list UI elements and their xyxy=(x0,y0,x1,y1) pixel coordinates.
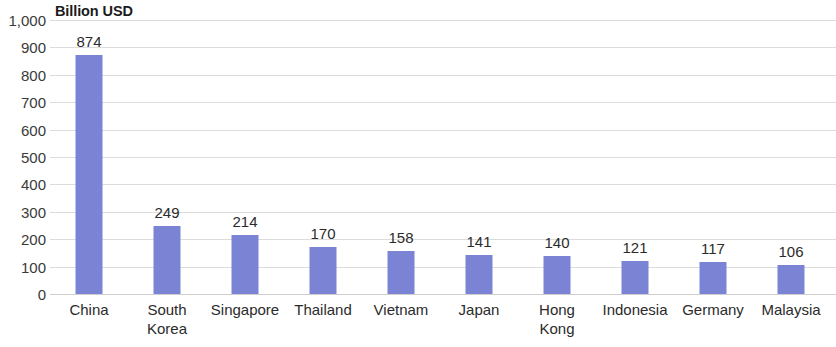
bar-value-label: 158 xyxy=(388,230,413,245)
bar-slot: 106 xyxy=(752,20,830,294)
bar-value-label: 141 xyxy=(466,234,491,249)
x-axis-category-label: China xyxy=(50,300,128,319)
bar[interactable] xyxy=(154,226,181,294)
chart-axis-title: Billion USD xyxy=(55,3,133,19)
bar[interactable] xyxy=(700,262,727,294)
bar-value-label: 117 xyxy=(701,241,725,256)
y-axis-tick-label: 1,000 xyxy=(0,13,46,28)
y-axis-tick-label: 200 xyxy=(0,232,46,247)
x-axis-category-label: Singapore xyxy=(206,300,284,319)
bars: 874249214170158141140121117106 xyxy=(50,20,836,294)
x-axis-category-label: Hong Kong xyxy=(518,300,596,338)
bar[interactable] xyxy=(232,235,259,294)
y-axis-tick-label: 500 xyxy=(0,150,46,165)
x-axis-category-label: Malaysia xyxy=(752,300,830,319)
bar[interactable] xyxy=(388,251,415,294)
y-axis-tick-label: 800 xyxy=(0,67,46,82)
x-axis-category-label: Germany xyxy=(674,300,752,319)
bar-slot: 141 xyxy=(440,20,518,294)
y-axis-tick-labels: 1,0009008007006005004003002001000 xyxy=(0,20,46,294)
bar[interactable] xyxy=(544,256,571,294)
y-axis-tick-label: 400 xyxy=(0,177,46,192)
x-axis-category-label: Thailand xyxy=(284,300,362,319)
bar-slot: 874 xyxy=(50,20,128,294)
x-axis-category-labels: ChinaSouth KoreaSingaporeThailandVietnam… xyxy=(50,300,836,347)
y-axis-tick-label: 700 xyxy=(0,95,46,110)
y-axis-tick-label: 300 xyxy=(0,204,46,219)
bar-slot: 140 xyxy=(518,20,596,294)
bar[interactable] xyxy=(76,55,103,294)
gridline xyxy=(50,294,836,295)
bar-value-label: 249 xyxy=(154,205,179,220)
bar-value-label: 140 xyxy=(544,235,569,250)
x-axis-category-label: Indonesia xyxy=(596,300,674,319)
x-axis-category-label: Vietnam xyxy=(362,300,440,319)
bar-slot: 170 xyxy=(284,20,362,294)
plot-area: 874249214170158141140121117106 xyxy=(50,20,836,294)
x-axis-category-label: South Korea xyxy=(128,300,206,338)
bar-chart: Billion USD 1,00090080070060050040030020… xyxy=(0,0,836,347)
bar-slot: 249 xyxy=(128,20,206,294)
bar[interactable] xyxy=(622,261,649,294)
bar-value-label: 874 xyxy=(76,34,101,49)
bar-slot: 158 xyxy=(362,20,440,294)
x-axis-category-label: Japan xyxy=(440,300,518,319)
bar-value-label: 106 xyxy=(778,244,803,259)
bar-slot: 121 xyxy=(596,20,674,294)
bar[interactable] xyxy=(466,255,493,294)
y-axis-tick-label: 900 xyxy=(0,40,46,55)
bar-value-label: 121 xyxy=(622,240,647,255)
y-axis-tick-label: 600 xyxy=(0,122,46,137)
bar-slot: 117 xyxy=(674,20,752,294)
bar-value-label: 214 xyxy=(232,214,257,229)
bar[interactable] xyxy=(778,265,805,294)
y-axis-tick-label: 0 xyxy=(0,287,46,302)
bar-slot: 214 xyxy=(206,20,284,294)
bar[interactable] xyxy=(310,247,337,294)
y-axis-tick-label: 100 xyxy=(0,259,46,274)
bar-value-label: 170 xyxy=(310,226,335,241)
